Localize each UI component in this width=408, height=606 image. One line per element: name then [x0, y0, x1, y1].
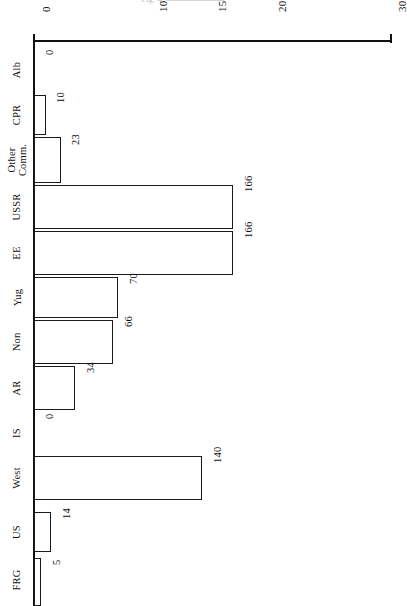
category-label-ee: EE [0, 236, 39, 270]
category-label-yug: Yug [0, 281, 38, 315]
bar-yug[interactable] [34, 277, 118, 318]
value-label-non: 66 [123, 316, 134, 327]
category-label-cpr: CPR [0, 98, 37, 132]
bar-other-comm[interactable] [34, 137, 61, 183]
figure-title: Fig. 4. ——————— [118, 0, 248, 4]
category-label-non: Non [0, 325, 39, 359]
bar-west[interactable] [34, 456, 202, 500]
axis-end-cap [390, 34, 392, 43]
axis-tick-0: 0 [40, 6, 52, 12]
category-label-west: West [0, 461, 39, 495]
axis-tick-150: 150 [216, 0, 228, 12]
value-label-other-comm: 23 [70, 134, 81, 145]
category-label-alb: Alb [0, 53, 39, 87]
bar-ussr[interactable] [34, 185, 233, 229]
bar-ar[interactable] [34, 366, 75, 410]
value-label-is: 0 [44, 414, 55, 419]
category-label-other-comm: Other Comm. [0, 143, 37, 177]
bar-ee[interactable] [34, 231, 233, 275]
value-label-ussr: 166 [243, 176, 254, 192]
category-label-us: US [0, 515, 37, 549]
category-label-frg: FRG [0, 563, 39, 597]
bar-non[interactable] [34, 320, 113, 364]
value-label-frg: 5 [51, 560, 62, 565]
value-label-alb: 0 [44, 50, 55, 55]
category-label-ussr: USSR [0, 190, 39, 224]
value-label-yug: 70 [128, 273, 139, 284]
axis-tick-100: 100 [157, 0, 169, 12]
value-label-ee: 166 [243, 222, 254, 238]
value-label-cpr: 10 [55, 92, 66, 103]
axis-tick-200: 200 [276, 0, 288, 12]
value-label-west: 140 [212, 447, 223, 463]
category-label-ar: AR [0, 371, 39, 405]
value-label-us: 14 [61, 508, 72, 519]
value-label-ar: 34 [85, 362, 96, 373]
axis-tick-300: 300 [396, 0, 408, 12]
category-label-is: IS [0, 416, 38, 450]
value-axis-line [33, 40, 392, 42]
